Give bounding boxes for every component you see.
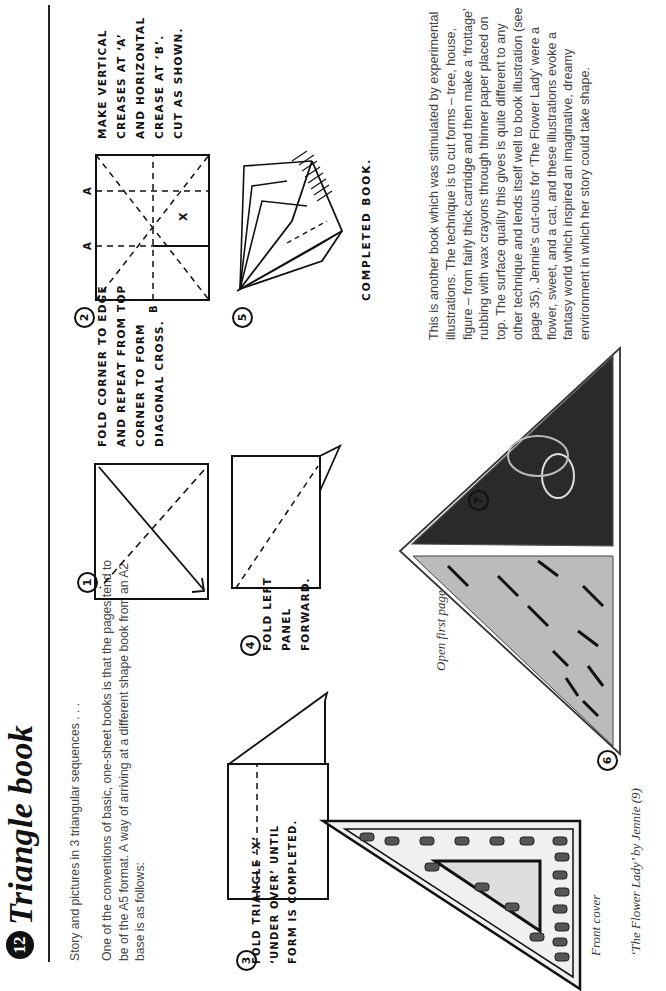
step-1-diagram	[94, 460, 209, 600]
open-page-illustration	[398, 346, 623, 756]
front-cover-caption: Front cover	[588, 895, 604, 956]
illustration-credit: ‘The Flower Lady’ by Jennie (9)	[628, 788, 644, 956]
svg-text:A: A	[82, 187, 93, 195]
step-2-diagram: X A A B	[82, 131, 222, 301]
page-number-badge: 12	[6, 931, 34, 959]
step-2-number: 2	[74, 307, 95, 328]
svg-text:B: B	[148, 305, 159, 313]
step-4-instruction: Fold left panel forward.	[258, 531, 315, 651]
intro-paragraph: One of the conventions of basic, one-she…	[99, 549, 149, 961]
front-cover-illustration	[315, 801, 615, 991]
book-page: 12 Triangle book Story and pictures in 3…	[0, 0, 666, 991]
step-7-number: 7	[468, 490, 489, 511]
description-paragraph: This is another book which was stimulate…	[426, 0, 594, 340]
step-5-number: 5	[232, 307, 253, 328]
svg-text:A: A	[82, 242, 93, 250]
page-title: Triangle book	[2, 725, 40, 925]
label-x: X	[177, 212, 190, 221]
step-5-diagram	[232, 151, 342, 301]
step-2-instruction: Make vertical creases at ‘A’ and horizon…	[93, 9, 188, 139]
intro-text: Story and pictures in 3 triangular seque…	[67, 551, 84, 961]
header-rule	[48, 5, 50, 962]
step-3-instruction: Fold triangle ‘X’ ‘under over’ until for…	[248, 804, 302, 964]
step-5-instruction: Completed book.	[357, 101, 376, 301]
step-1-instruction: Fold corner to edge and repeat from top …	[93, 277, 169, 447]
